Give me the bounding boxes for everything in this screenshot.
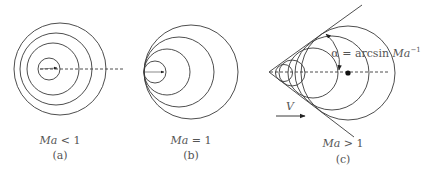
angle-formula-text: α = arcsin [331,47,392,60]
panel-b-condition: Ma = 1 [170,134,211,147]
condition-text: = 1 [188,134,211,147]
panel-b-caption: (b) [183,149,199,162]
condition-text: > 1 [340,137,363,150]
mach-symbol: Ma [39,134,57,147]
panel-c-caption: (c) [336,153,351,166]
wave-circle [276,65,293,82]
velocity-label: V [286,100,294,113]
panel-a-condition: Ma < 1 [39,134,80,147]
panel-c-supersonic [269,5,395,137]
mach-symbol: Ma [393,47,411,60]
source-arrow-icon [40,68,57,69]
mach-symbol: Ma [322,137,340,150]
mach-angle-label: α = arcsin Ma−1 [331,46,421,60]
mach-symbol: Ma [170,134,188,147]
mach-cone-lower-line [269,72,354,137]
source-point [345,70,350,75]
panel-a-caption: (a) [52,149,67,162]
panel-a-subsonic [14,23,125,115]
condition-text: < 1 [57,134,80,147]
exponent: −1 [410,46,420,54]
panel-b-sonic [144,25,238,119]
panel-c-condition: Ma > 1 [322,137,363,150]
